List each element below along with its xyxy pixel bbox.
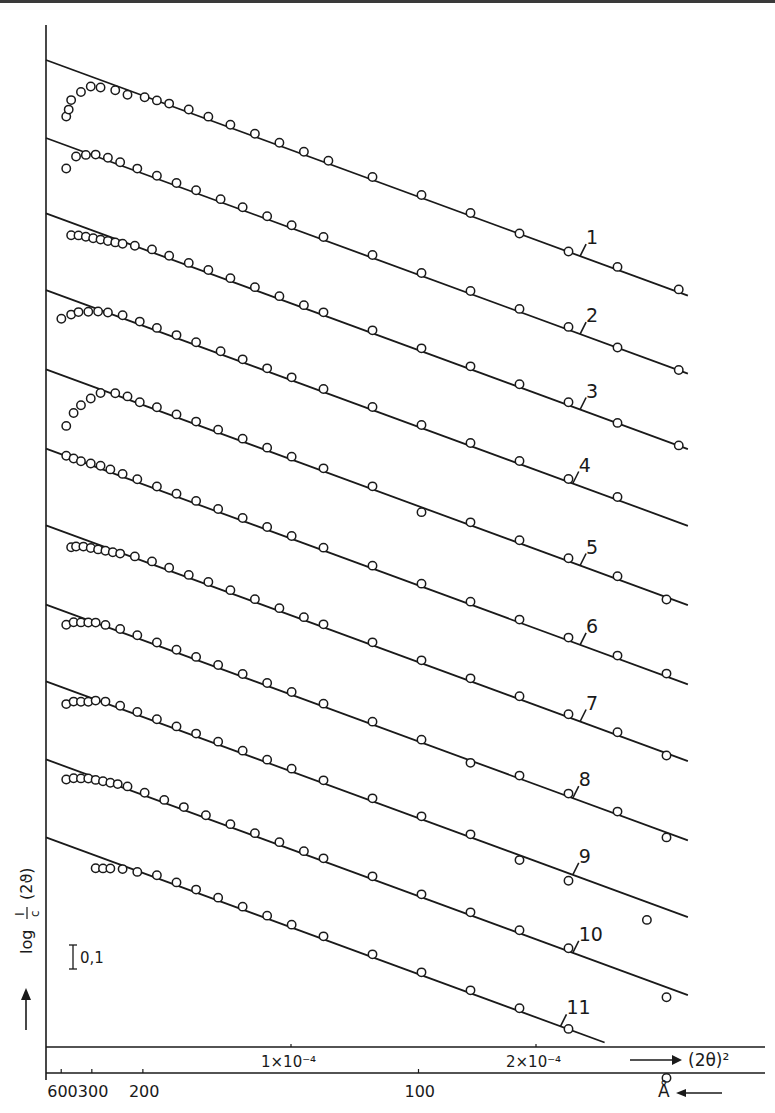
data-point: [319, 543, 327, 551]
data-point: [72, 152, 80, 160]
data-point: [417, 191, 425, 199]
x2-axis-label: Å: [658, 1080, 722, 1101]
x2-tick-label: 300: [78, 1082, 109, 1101]
data-point: [368, 638, 376, 646]
data-point: [106, 465, 114, 473]
data-point: [613, 419, 621, 427]
data-point: [675, 366, 683, 374]
data-point: [319, 233, 327, 241]
data-point: [65, 105, 73, 113]
data-point: [417, 656, 425, 664]
data-point: [515, 856, 523, 864]
data-point: [564, 554, 572, 562]
data-point: [123, 91, 131, 99]
scale-bar-label: 0,1: [80, 949, 104, 967]
data-point: [515, 457, 523, 465]
data-point: [263, 443, 271, 451]
data-point: [417, 344, 425, 352]
data-point: [675, 285, 683, 293]
data-point: [192, 653, 200, 661]
data-point: [87, 459, 95, 467]
data-point: [613, 263, 621, 271]
data-point: [238, 203, 246, 211]
data-point: [77, 457, 85, 465]
series-2: 2: [46, 138, 688, 374]
data-point: [613, 728, 621, 736]
data-point: [613, 572, 621, 580]
data-point: [275, 292, 283, 300]
x2-tick-label: 200: [129, 1082, 160, 1101]
data-point: [153, 403, 161, 411]
data-point: [662, 669, 670, 677]
data-point: [185, 571, 193, 579]
data-point: [417, 890, 425, 898]
data-point: [515, 380, 523, 388]
data-point: [192, 417, 200, 425]
data-point: [368, 717, 376, 725]
data-point: [111, 86, 119, 94]
data-point: [466, 830, 474, 838]
series-label: 10: [579, 923, 603, 945]
data-point: [165, 251, 173, 259]
data-point: [466, 209, 474, 217]
data-point: [368, 251, 376, 259]
data-point: [91, 696, 99, 704]
data-point: [91, 618, 99, 626]
series-label: 11: [567, 996, 591, 1018]
series-3: 3: [46, 213, 688, 449]
data-point: [172, 410, 180, 418]
x2-ticks: 600300200100: [47, 1069, 435, 1101]
data-point: [417, 508, 425, 516]
x-axis-label: (2θ)²: [630, 1050, 729, 1070]
fit-line: [46, 525, 688, 761]
data-point: [116, 549, 124, 557]
data-point: [74, 308, 82, 316]
data-point: [515, 692, 523, 700]
series-label: 1: [586, 226, 598, 248]
x-tick-label: 2×10⁻⁴: [506, 1053, 561, 1071]
data-point: [515, 305, 523, 313]
data-point: [116, 158, 124, 166]
x2-tick-label: 600: [47, 1082, 78, 1101]
data-point: [263, 523, 271, 531]
series-label: 4: [579, 454, 591, 476]
data-point: [226, 121, 234, 129]
data-point: [214, 893, 222, 901]
x2-axis-arrow-icon: [676, 1089, 686, 1097]
series-label: 2: [586, 304, 598, 326]
data-point: [613, 493, 621, 501]
data-point: [131, 552, 139, 560]
data-point: [133, 868, 141, 876]
y-axis-arrow: [21, 988, 31, 1030]
data-point: [104, 154, 112, 162]
data-point: [643, 916, 651, 924]
data-point: [118, 240, 126, 248]
data-point: [466, 908, 474, 916]
data-point: [136, 398, 144, 406]
data-point: [57, 315, 65, 323]
data-point: [515, 771, 523, 779]
fit-line: [46, 213, 688, 449]
data-point: [216, 195, 224, 203]
series-9: 9: [46, 681, 688, 924]
data-point: [319, 932, 327, 940]
data-point: [116, 625, 124, 633]
series-label: 5: [586, 536, 598, 558]
data-point: [275, 604, 283, 612]
data-point: [96, 389, 104, 397]
data-point: [172, 331, 180, 339]
data-point: [192, 729, 200, 737]
data-point: [466, 759, 474, 767]
data-point: [251, 829, 259, 837]
data-point: [123, 392, 131, 400]
data-point: [287, 532, 295, 540]
data-point: [226, 586, 234, 594]
data-point: [192, 885, 200, 893]
data-point: [287, 221, 295, 229]
data-point: [368, 482, 376, 490]
x-axis-label-text: (2θ)²: [688, 1050, 729, 1070]
data-point: [368, 872, 376, 880]
data-point: [662, 993, 670, 1001]
data-point: [368, 173, 376, 181]
data-point: [140, 788, 148, 796]
